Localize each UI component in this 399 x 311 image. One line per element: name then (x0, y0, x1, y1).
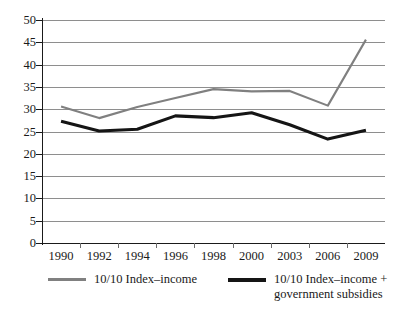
y-tick-label-50: 50 (8, 14, 36, 26)
y-tick-label-5: 5 (8, 215, 36, 227)
x-tick-1998 (194, 243, 195, 248)
y-tick-20 (36, 154, 42, 155)
legend-swatch-index-income-subsidies (228, 278, 266, 282)
y-tick-40 (36, 65, 42, 66)
y-tick-45 (36, 42, 42, 43)
y-tick-10 (36, 198, 42, 199)
x-axis-line (36, 243, 385, 244)
x-tick-label-2009: 2009 (346, 249, 386, 264)
x-tick-2006 (309, 243, 310, 248)
legend-label-index-income: 10/10 Index–income (94, 272, 197, 287)
y-tick-label-35: 35 (8, 81, 36, 93)
x-tick-1996 (156, 243, 157, 248)
y-tick-label-30: 30 (8, 103, 36, 115)
y-tick-label-20: 20 (8, 148, 36, 160)
y-tick-5 (36, 221, 42, 222)
y-tick-15 (36, 176, 42, 177)
line-chart: 50454035302520151050 1990199219941996199… (0, 0, 399, 311)
legend-swatch-index-income (48, 278, 86, 281)
x-axis-labels: 199019921994199619982000200320062009 (42, 249, 385, 267)
x-tick-2000 (233, 243, 234, 248)
chart-legend: 10/10 Index–income 10/10 Index–income + … (0, 272, 399, 311)
x-tick-label-1992: 1992 (79, 249, 119, 264)
x-tick-label-1994: 1994 (117, 249, 157, 264)
y-tick-50 (36, 20, 42, 21)
x-tick-label-1998: 1998 (194, 249, 234, 264)
x-tick-2003 (271, 243, 272, 248)
y-tick-label-10: 10 (8, 192, 36, 204)
y-tick-label-15: 15 (8, 170, 36, 182)
series-line-0 (61, 40, 366, 119)
x-tick-1992 (80, 243, 81, 248)
y-tick-30 (36, 109, 42, 110)
legend-item-index-income-subsidies[interactable]: 10/10 Index–income + government subsidie… (228, 272, 387, 301)
y-tick-25 (36, 132, 42, 133)
x-tick-label-2003: 2003 (270, 249, 310, 264)
x-tick-2009 (347, 243, 348, 248)
series-layer (42, 20, 385, 243)
x-tick-label-2000: 2000 (232, 249, 272, 264)
x-tick-label-1996: 1996 (155, 249, 195, 264)
legend-label-index-income-subsidies: 10/10 Index–income + government subsidie… (274, 272, 387, 301)
y-tick-label-40: 40 (8, 59, 36, 71)
y-axis-labels: 50454035302520151050 (0, 0, 36, 311)
legend-item-index-income[interactable]: 10/10 Index–income (48, 272, 197, 287)
y-tick-label-45: 45 (8, 36, 36, 48)
y-tick-label-25: 25 (8, 126, 36, 138)
y-tick-label-0: 0 (8, 237, 36, 249)
x-tick-label-1990: 1990 (41, 249, 81, 264)
x-tick-1994 (118, 243, 119, 248)
x-tick-label-2006: 2006 (308, 249, 348, 264)
y-tick-0 (36, 243, 42, 244)
y-tick-35 (36, 87, 42, 88)
